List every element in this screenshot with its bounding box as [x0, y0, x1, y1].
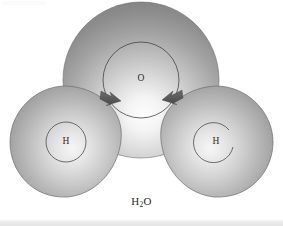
hydrogen-left-label: H — [62, 136, 69, 146]
molecule-diagram: O H H — [0, 0, 283, 226]
formula-element-oxygen: O — [144, 195, 152, 207]
oxygen-label: O — [137, 73, 144, 83]
water-molecule-figure: O H H H2O — [0, 0, 283, 226]
chemical-formula: H2O — [0, 196, 283, 207]
hydrogen-right-label: H — [212, 136, 219, 146]
formula-subscript: 2 — [139, 200, 143, 209]
page-edge-band — [0, 219, 283, 226]
